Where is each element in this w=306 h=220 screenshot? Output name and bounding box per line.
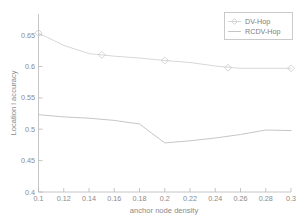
y-tick-label: 0.5 xyxy=(25,125,35,134)
x-axis-title: anchor node density xyxy=(130,206,199,215)
y-tick-label: 0.6 xyxy=(25,62,35,71)
x-tick-label: 0.14 xyxy=(82,194,96,203)
x-tick-label: 0.22 xyxy=(183,194,197,203)
line-chart-canvas: 0.4 0.45 0.5 0.55 0.6 0.65 xyxy=(0,0,306,220)
y-tick-label: 0.65 xyxy=(21,31,35,40)
legend-label-dv-hop: DV-Hop xyxy=(245,17,270,26)
x-tick-label: 0.26 xyxy=(234,194,248,203)
y-tick-label: 0.45 xyxy=(21,156,35,165)
x-tick-label: 0.24 xyxy=(208,194,222,203)
x-tick-label: 0.18 xyxy=(133,194,147,203)
chart-figure: 0.4 0.45 0.5 0.55 0.6 0.65 xyxy=(0,0,306,220)
chart-legend[interactable]: DV-Hop RCDV-Hop xyxy=(225,13,293,40)
x-tick-label: 0.12 xyxy=(57,194,71,203)
x-tick-label: 0.16 xyxy=(107,194,121,203)
y-axis-title: Location l accuracy xyxy=(9,70,18,135)
x-tick-label: 0.2 xyxy=(160,194,170,203)
legend-entry-dv-hop[interactable]: DV-Hop xyxy=(228,17,270,26)
x-tick-label: 0.3 xyxy=(286,194,296,203)
x-tick-label: 0.1 xyxy=(34,194,44,203)
x-tick-label: 0.28 xyxy=(259,194,273,203)
y-tick-label: 0.55 xyxy=(21,93,35,102)
legend-label-rcdv-hop: RCDV-Hop xyxy=(245,27,281,36)
